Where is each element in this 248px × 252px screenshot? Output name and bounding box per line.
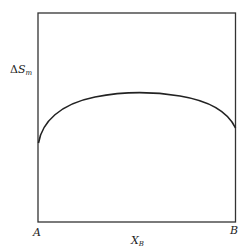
endpoint-label-a: A — [33, 227, 41, 238]
x-axis-label: XB — [131, 235, 144, 248]
entropy-curve — [39, 93, 236, 143]
chart-canvas — [0, 0, 248, 252]
plot-frame — [38, 13, 236, 222]
y-axis-label: ΔSm — [10, 64, 32, 77]
endpoint-label-b: B — [230, 225, 238, 236]
